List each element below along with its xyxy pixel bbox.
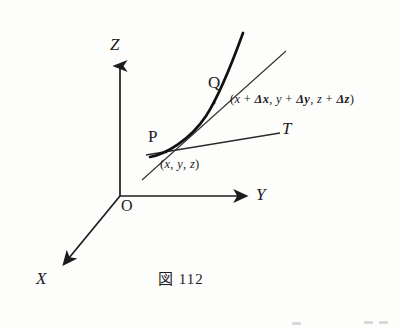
origin-label: O	[121, 198, 133, 214]
tangent-line-label: T	[282, 120, 291, 137]
coord-token: Δy	[296, 92, 310, 106]
point-q-coordinates: (x + Δx, y + Δy, z + Δz)	[230, 93, 354, 106]
coord-token: +	[240, 92, 254, 106]
figure-page: Z Y X T O P Q (x, y, z) (x + Δx, y + Δy,…	[0, 0, 400, 329]
point-q-marker	[213, 102, 216, 105]
coord-token: ,	[183, 157, 190, 171]
x-axis-label: X	[36, 270, 46, 287]
coord-token: +	[322, 92, 336, 106]
coord-token: Δz	[336, 92, 349, 106]
point-q-coordinate-parts: x + Δx, y + Δy, z + Δz	[234, 92, 349, 106]
figure-caption: 図 112	[158, 272, 204, 287]
coord-token: +	[282, 92, 296, 106]
paren-close: )	[350, 92, 354, 106]
point-p-coordinate-parts: x, y, z	[164, 157, 195, 171]
y-axis-label: Y	[256, 186, 265, 203]
point-p-marker	[165, 151, 168, 154]
point-q-label: Q	[208, 74, 220, 91]
scan-artifact	[292, 322, 301, 325]
x-axis-line	[64, 196, 120, 264]
point-p-coordinates: (x, y, z)	[160, 158, 200, 171]
scan-artifact	[379, 321, 388, 324]
z-axis-label: Z	[110, 36, 119, 53]
paren-close: )	[195, 157, 199, 171]
coord-token: ,	[310, 92, 317, 106]
scan-artifact	[364, 321, 373, 324]
point-p-label: P	[148, 128, 157, 145]
coord-token: Δx	[255, 92, 270, 106]
